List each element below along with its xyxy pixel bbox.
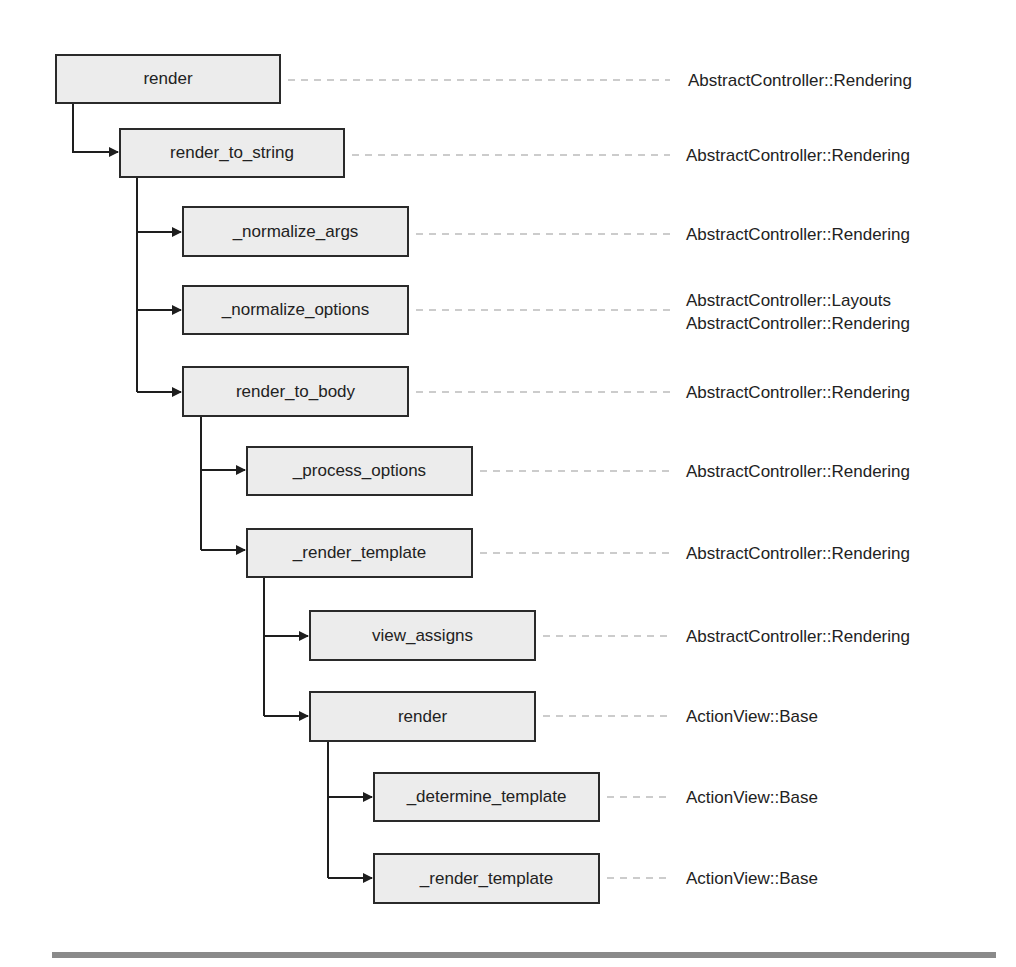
owner-label: AbstractController::Rendering	[686, 313, 910, 334]
node-label: _normalize_options	[222, 300, 369, 320]
node-label: view_assigns	[372, 626, 473, 646]
node-label: render_to_body	[236, 382, 355, 402]
node-render-template-controller: _render_template	[246, 528, 473, 578]
node-label: render	[398, 707, 447, 727]
node-normalize-args: _normalize_args	[182, 206, 409, 257]
node-label: render	[143, 69, 192, 89]
node-label: _render_template	[293, 543, 426, 563]
node-render-to-body: render_to_body	[182, 366, 409, 417]
node-render-actionview: render	[309, 691, 536, 742]
node-normalize-options: _normalize_options	[182, 285, 409, 335]
owner-label: AbstractController::Rendering	[686, 543, 910, 564]
node-view-assigns: view_assigns	[309, 610, 536, 661]
owner-label: ActionView::Base	[686, 868, 818, 889]
owner-label: ActionView::Base	[686, 706, 818, 727]
node-render-to-string: render_to_string	[119, 128, 345, 178]
owner-label: AbstractController::Rendering	[686, 145, 910, 166]
node-label: render_to_string	[170, 143, 294, 163]
node-label: _normalize_args	[233, 222, 359, 242]
owner-label: AbstractController::Layouts	[686, 290, 891, 311]
node-label: _render_template	[420, 869, 553, 889]
node-process-options: _process_options	[246, 446, 473, 496]
owner-label: AbstractController::Rendering	[686, 224, 910, 245]
node-render-template-actionview: _render_template	[373, 853, 600, 904]
bottom-rule-divider	[52, 952, 996, 958]
owner-label: ActionView::Base	[686, 787, 818, 808]
node-determine-template: _determine_template	[373, 772, 600, 822]
owner-label: AbstractController::Rendering	[686, 626, 910, 647]
node-label: _process_options	[293, 461, 426, 481]
owner-label: AbstractController::Rendering	[686, 382, 910, 403]
node-render: render	[55, 54, 281, 104]
owner-label: AbstractController::Rendering	[688, 70, 912, 91]
node-label: _determine_template	[407, 787, 567, 807]
owner-label: AbstractController::Rendering	[686, 461, 910, 482]
